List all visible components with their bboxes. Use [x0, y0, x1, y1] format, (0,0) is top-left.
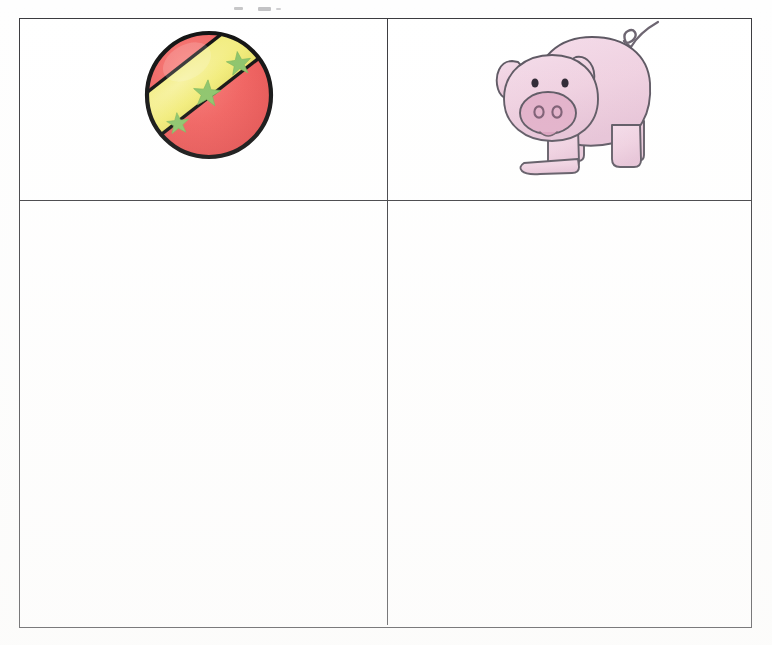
cell-content-blank-left — [20, 201, 387, 625]
table-cell-r2c2[interactable] — [388, 201, 750, 625]
worksheet-table — [19, 18, 752, 628]
table-row — [20, 19, 751, 201]
cell-content-ball — [20, 19, 387, 200]
blank-answer-area[interactable] — [388, 201, 750, 625]
cropped-text-remnant — [232, 0, 310, 7]
striped-ball-icon — [143, 24, 275, 168]
scanned-page — [0, 0, 772, 645]
table-cell-r1c2[interactable] — [388, 19, 750, 200]
cell-content-blank-right — [388, 201, 750, 625]
blank-answer-area[interactable] — [20, 201, 387, 625]
cell-content-pig — [388, 19, 750, 200]
table-cell-r1c1[interactable] — [20, 19, 388, 200]
pig-icon — [468, 13, 678, 197]
table-row — [20, 201, 751, 625]
table-cell-r2c1[interactable] — [20, 201, 388, 625]
